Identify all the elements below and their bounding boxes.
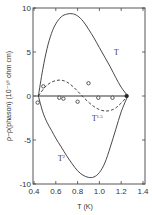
x-tick-label: 1.4 xyxy=(137,187,149,196)
data-point xyxy=(36,101,39,104)
y-tick-label: -5 xyxy=(24,136,32,145)
axis-ticks: 0.40.60.81.01.21.41050-5-10 xyxy=(19,4,149,196)
x-tick-label: 1.2 xyxy=(116,187,128,196)
data-point xyxy=(62,97,65,100)
data-point xyxy=(97,96,100,99)
curve-label-t: T xyxy=(114,48,119,57)
data-point xyxy=(125,94,129,98)
data-markers xyxy=(36,82,128,105)
x-tick-label: 1.0 xyxy=(94,187,106,196)
x-axis-label: T (K) xyxy=(77,203,92,211)
data-point xyxy=(111,96,114,99)
y-tick-label: -10 xyxy=(19,180,31,189)
y-axis-label: ρ−ρ(phason) (10⁻¹⁸ ohm cm) xyxy=(5,51,13,141)
y-tick-label: 10 xyxy=(22,4,31,13)
x-tick-label: 0.6 xyxy=(50,187,62,196)
data-point xyxy=(87,82,90,85)
data-point xyxy=(76,100,79,103)
curve-label-t15: T1.5 xyxy=(92,114,103,123)
data-point xyxy=(42,85,45,88)
chart: 0.40.60.81.01.21.41050-5-10 T T1.5 T2 T … xyxy=(0,0,152,215)
data-point xyxy=(58,96,61,99)
curve-label-t2: T2 xyxy=(58,154,66,163)
curve-t2 xyxy=(38,96,127,178)
x-tick-label: 0.8 xyxy=(72,187,84,196)
y-tick-label: 5 xyxy=(27,48,32,57)
y-tick-label: 0 xyxy=(27,92,32,101)
